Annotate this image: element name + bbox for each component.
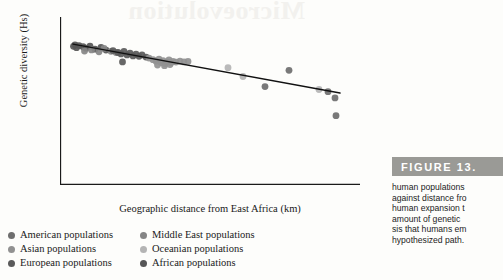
legend-item-label: African populations — [152, 258, 236, 269]
data-point — [333, 112, 340, 119]
legend-item-asian-populations: Asian populations — [8, 244, 140, 255]
legend-item-african-populations: African populations — [140, 258, 358, 269]
caption-line: amount of genetic — [392, 214, 503, 225]
legend-item-label: Asian populations — [20, 244, 96, 255]
data-point — [81, 48, 88, 55]
legend-item-label: Middle East populations — [152, 230, 255, 241]
figure-screenshot: Microevolution Genetic diversity (Hs) 0.… — [0, 0, 503, 280]
trendline — [73, 44, 340, 93]
legend-swatch-dot-icon — [8, 246, 15, 253]
series-european-populations — [110, 47, 150, 65]
figure-number-label: FIGURE 13. — [392, 161, 477, 173]
legend-item-american-populations: American populations — [8, 230, 140, 241]
caption-line: sis that humans em — [392, 224, 503, 235]
scatter-plot-svg: 0.20.30.40.50.60.70.80.905,00010,00015,0… — [60, 17, 360, 185]
legend-item-european-populations: European populations — [8, 258, 140, 269]
data-point — [119, 58, 126, 65]
figure-caption-text: human populationsagainst distance frohum… — [392, 182, 503, 246]
data-point — [286, 67, 293, 74]
y-axis-label: Genetic diversity (Hs) — [18, 0, 29, 136]
caption-line: human expansion t — [392, 203, 503, 214]
caption-line: hypothesized path. — [392, 235, 503, 246]
figure-number-bar: FIGURE 13. — [392, 157, 503, 176]
legend-swatch-dot-icon — [140, 232, 147, 239]
data-point — [332, 94, 339, 101]
scatter-figure: Genetic diversity (Hs) 0.20.30.40.50.60.… — [0, 0, 366, 280]
legend-swatch-dot-icon — [140, 246, 147, 253]
data-point — [185, 58, 192, 65]
caption-panel: FIGURE 13. human populationsagainst dist… — [366, 0, 503, 280]
legend-item-middle-east-populations: Middle East populations — [140, 230, 358, 241]
caption-line: human populations — [392, 182, 503, 193]
axis-spines — [61, 17, 361, 185]
legend-swatch-dot-icon — [8, 260, 15, 267]
legend-item-label: Oceanian populations — [152, 244, 243, 255]
plot-area: 0.20.30.40.50.60.70.80.905,00010,00015,0… — [60, 17, 360, 185]
legend-swatch-dot-icon — [140, 260, 147, 267]
legend: American populationsMiddle East populati… — [8, 228, 358, 270]
series-oceanian-populations — [225, 64, 323, 93]
legend-item-oceanian-populations: Oceanian populations — [140, 244, 358, 255]
caption-line: against distance fro — [392, 193, 503, 204]
data-point — [154, 62, 161, 69]
legend-item-label: American populations — [20, 230, 113, 241]
legend-swatch-dot-icon — [8, 232, 15, 239]
data-point — [225, 64, 232, 71]
x-axis-label: Geographic distance from East Africa (km… — [60, 203, 360, 214]
data-point — [262, 83, 269, 90]
legend-item-label: European populations — [20, 258, 112, 269]
series-american-populations — [262, 67, 340, 119]
